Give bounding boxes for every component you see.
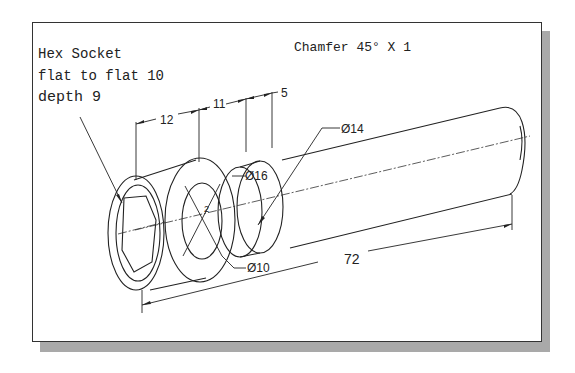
chamfer-note: Chamfer 45° X 1 <box>294 40 411 55</box>
dim-dia-16: Ø16 <box>245 169 268 183</box>
dim-dia-10: Ø10 <box>247 261 270 275</box>
overall-dimension <box>142 195 512 313</box>
hex-socket-note-line1: Hex Socket <box>38 43 164 65</box>
hex-socket-note-line3: depth 9 <box>38 87 164 109</box>
dim-12: 12 <box>160 113 174 127</box>
dim-2: 2 <box>204 204 209 214</box>
dim-5: 5 <box>281 86 288 100</box>
centerline <box>135 136 530 230</box>
dia-14-leader <box>258 128 340 225</box>
shaft <box>282 107 525 248</box>
hex-socket-leader <box>80 117 122 203</box>
dim-dia-14: Ø14 <box>341 122 364 136</box>
hex-socket-note: Hex Socket flat to flat 10 depth 9 <box>38 43 164 109</box>
hex-socket-note-line2: flat to flat 10 <box>38 65 164 87</box>
dim-11: 11 <box>213 97 226 111</box>
dim-72: 72 <box>344 251 360 267</box>
